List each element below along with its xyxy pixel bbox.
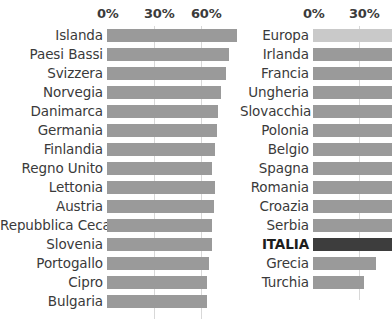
- bar-row: Paesi Bassi: [0, 45, 240, 64]
- bar-label-norvegia: Norvegia: [0, 83, 103, 102]
- bar-francia: [313, 67, 392, 80]
- x-tick-left-1: 30%: [144, 6, 175, 21]
- bar-islanda: [107, 29, 237, 42]
- bar-label-portogallo: Portogallo: [0, 254, 103, 273]
- bar-label-italia: ITALIA: [240, 235, 309, 254]
- chart-page: 0%30%60% IslandaPaesi BassiSvizzeraNorve…: [0, 0, 392, 323]
- bar-cipro: [107, 276, 207, 289]
- bar-row: Islanda: [0, 26, 240, 45]
- bar-row: Spagna: [240, 159, 392, 178]
- bar-norvegia: [107, 86, 221, 99]
- x-axis-right: 0%30%: [240, 6, 392, 24]
- bar-label-croazia: Croazia: [240, 197, 309, 216]
- bar-row: Croazia: [240, 197, 392, 216]
- bar-row: ITALIA: [240, 235, 392, 254]
- bar-label-francia: Francia: [240, 64, 309, 83]
- bar-portogallo: [107, 257, 209, 270]
- bar-label-slovenia: Slovenia: [0, 235, 103, 254]
- bar-slovenia: [107, 238, 212, 251]
- bar-label-lettonia: Lettonia: [0, 178, 103, 197]
- bar-turchia: [313, 276, 364, 289]
- bar-row: Francia: [240, 64, 392, 83]
- bar-row: Svizzera: [0, 64, 240, 83]
- bar-serbia: [313, 219, 392, 232]
- x-tick-right-0: 0%: [303, 6, 325, 21]
- bar-ungheria: [313, 86, 392, 99]
- bar-croazia: [313, 200, 392, 213]
- bar-row: Slovacchia: [240, 102, 392, 121]
- x-tick-right-1: 30%: [349, 6, 380, 21]
- bar-row: Serbia: [240, 216, 392, 235]
- bar-row: Danimarca: [0, 102, 240, 121]
- bar-row: Repubblica Ceca: [0, 216, 240, 235]
- bar-label-ungheria: Ungheria: [240, 83, 309, 102]
- bar-danimarca: [107, 105, 218, 118]
- x-tick-left-2: 60%: [191, 6, 222, 21]
- bar-row: Polonia: [240, 121, 392, 140]
- bar-row: Finlandia: [0, 140, 240, 159]
- x-tick-left-0: 0%: [97, 6, 119, 21]
- bar-paesi-bassi: [107, 48, 229, 61]
- bar-row: Turchia: [240, 273, 392, 292]
- bar-label-serbia: Serbia: [240, 216, 309, 235]
- chart-panel-left: 0%30%60% IslandaPaesi BassiSvizzeraNorve…: [0, 0, 240, 323]
- bar-row: Bulgaria: [0, 292, 240, 311]
- bar-svizzera: [107, 67, 226, 80]
- bar-row: Belgio: [240, 140, 392, 159]
- bar-label-austria: Austria: [0, 197, 103, 216]
- bar-row: Austria: [0, 197, 240, 216]
- bar-row: Regno Unito: [0, 159, 240, 178]
- bar-grecia: [313, 257, 376, 270]
- bar-bulgaria: [107, 295, 207, 308]
- bar-row: Lettonia: [0, 178, 240, 197]
- bar-spagna: [313, 162, 392, 175]
- bar-label-grecia: Grecia: [240, 254, 309, 273]
- bar-row: Norvegia: [0, 83, 240, 102]
- bar-lettonia: [107, 181, 215, 194]
- bar-slovacchia: [313, 105, 392, 118]
- bar-row: Germania: [0, 121, 240, 140]
- bar-row: Romania: [240, 178, 392, 197]
- bar-regno-unito: [107, 162, 212, 175]
- bar-label-slovacchia: Slovacchia: [240, 102, 309, 121]
- bar-label-romania: Romania: [240, 178, 309, 197]
- plot-area-left: IslandaPaesi BassiSvizzeraNorvegiaDanima…: [0, 26, 240, 316]
- bar-italia: [313, 238, 392, 251]
- bar-label-danimarca: Danimarca: [0, 102, 103, 121]
- bar-austria: [107, 200, 214, 213]
- bar-polonia: [313, 124, 392, 137]
- bar-row: Irlanda: [240, 45, 392, 64]
- bar-germania: [107, 124, 217, 137]
- bar-label-islanda: Islanda: [0, 26, 103, 45]
- bar-label-turchia: Turchia: [240, 273, 309, 292]
- bar-finlandia: [107, 143, 215, 156]
- bar-belgio: [313, 143, 392, 156]
- bar-label-spagna: Spagna: [240, 159, 309, 178]
- bar-label-paesi-bassi: Paesi Bassi: [0, 45, 103, 64]
- bar-row: Grecia: [240, 254, 392, 273]
- chart-panel-right: 0%30% EuropaIrlandaFranciaUngheriaSlovac…: [240, 0, 392, 323]
- bar-repubblica-ceca: [107, 219, 212, 232]
- plot-area-right: EuropaIrlandaFranciaUngheriaSlovacchiaPo…: [240, 26, 392, 316]
- bar-label-belgio: Belgio: [240, 140, 309, 159]
- bar-label-polonia: Polonia: [240, 121, 309, 140]
- bar-label-irlanda: Irlanda: [240, 45, 309, 64]
- bar-label-bulgaria: Bulgaria: [0, 292, 103, 311]
- bar-row: Slovenia: [0, 235, 240, 254]
- bar-label-finlandia: Finlandia: [0, 140, 103, 159]
- bar-romania: [313, 181, 392, 194]
- bar-label-svizzera: Svizzera: [0, 64, 103, 83]
- bar-label-germania: Germania: [0, 121, 103, 140]
- bar-row: Europa: [240, 26, 392, 45]
- bar-label-regno-unito: Regno Unito: [0, 159, 103, 178]
- bar-label-repubblica-ceca: Repubblica Ceca: [0, 216, 103, 235]
- bar-europa: [313, 29, 392, 42]
- bar-label-cipro: Cipro: [0, 273, 103, 292]
- bar-row: Ungheria: [240, 83, 392, 102]
- bar-label-europa: Europa: [240, 26, 309, 45]
- bar-irlanda: [313, 48, 392, 61]
- bar-row: Portogallo: [0, 254, 240, 273]
- x-axis-left: 0%30%60%: [0, 6, 240, 24]
- bar-row: Cipro: [0, 273, 240, 292]
